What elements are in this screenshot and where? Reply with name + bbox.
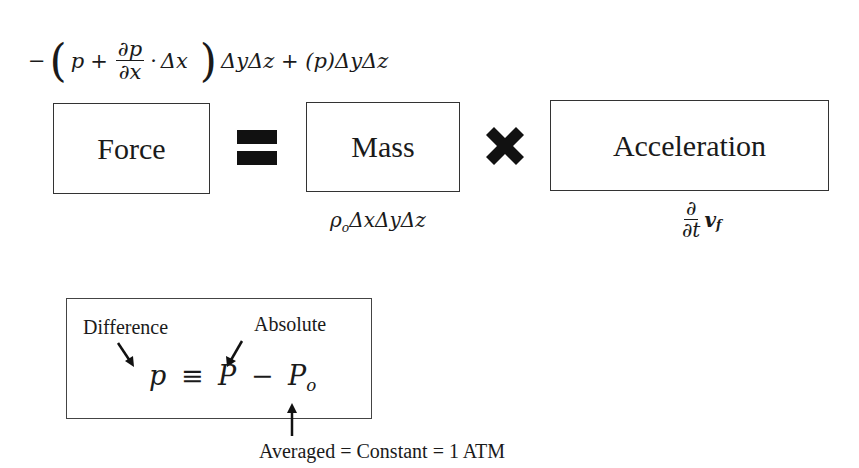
mass-label: Mass [351,130,414,164]
difference-arrow-icon [115,341,137,369]
averaged-arrow-icon [286,402,298,436]
dot-operator: · [150,49,157,73]
acceleration-expression: ∂ ∂t vf [680,198,721,241]
close-paren: ) [200,39,217,83]
expression-rest: ΔyΔz + (p)ΔyΔz [221,49,388,73]
pressure-definition-box: Difference Absolute p ≡ P − Po [66,298,372,419]
averaged-note: Averaged = Constant = 1 ATM [259,440,505,463]
mass-box: Mass [306,102,460,192]
pressure-equation: p ≡ P − Po [149,360,316,395]
acceleration-label: Acceleration [613,129,766,163]
absolute-label: Absolute [254,313,326,336]
force-label: Force [97,132,165,166]
velocity-v: v [704,208,716,232]
plus-sign: + [90,49,108,73]
difference-label: Difference [83,316,168,339]
equals-icon [237,130,277,166]
open-paren: ( [50,39,67,83]
partial-over-partial-t: ∂ ∂t [682,198,700,241]
minus-sign: − [28,49,46,73]
delta-x: Δx [161,49,188,73]
force-expression: − ( p + ∂p ∂x · Δx ) ΔyΔz + (p)ΔyΔz [28,38,388,83]
acceleration-box: Acceleration [550,100,829,191]
mass-expression: ρoΔxΔyΔz [330,208,426,235]
partial-p-over-partial-x: ∂p ∂x [116,38,144,83]
multiply-icon [480,121,530,171]
force-box: Force [53,103,210,194]
pressure-p: p [71,49,84,73]
